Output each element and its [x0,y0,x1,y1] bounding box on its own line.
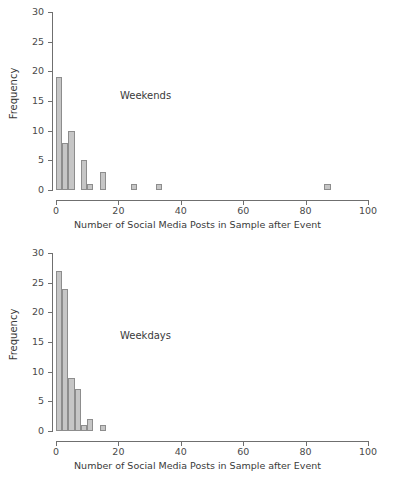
y-axis-tick [48,372,53,373]
chart-panel-weekdays: 051015202530020406080100 Frequency Numbe… [0,241,395,482]
y-axis-tick-label: 30 [0,7,44,17]
y-axis-tick [48,101,53,102]
x-axis-tick-label: 0 [36,446,76,457]
histogram-bar [87,184,93,190]
y-axis-tick [48,431,53,432]
x-axis-tick-label: 80 [286,446,326,457]
y-axis-title-weekends: Frequency [8,29,19,159]
y-axis-tick [48,283,53,284]
y-axis-tick [48,253,53,254]
y-axis-tick [48,131,53,132]
y-axis-tick-label: 0 [0,185,44,195]
x-axis-title-weekdays: Number of Social Media Posts in Sample a… [0,460,395,471]
x-axis-tick-label: 100 [348,205,388,216]
series-label-weekdays: Weekdays [120,330,171,341]
y-axis-tick [48,190,53,191]
y-axis-tick [48,42,53,43]
x-axis-line-weekdays [56,441,368,442]
series-label-weekends: Weekends [120,90,171,101]
histogram-bar [324,184,330,190]
plot-area-weekdays [56,253,368,431]
plot-area-weekends [56,12,368,190]
x-axis-tick-label: 40 [161,205,201,216]
histogram-bar [131,184,137,190]
y-axis-tick [48,342,53,343]
histogram-bar [100,425,106,431]
y-axis-tick [48,160,53,161]
x-axis-tick-label: 100 [348,446,388,457]
bars-weekdays [56,253,368,431]
x-axis-tick-label: 80 [286,205,326,216]
x-axis-tick-label: 0 [36,205,76,216]
y-axis-tick [48,71,53,72]
y-axis-tick-label: 0 [0,426,44,436]
x-axis-line-weekends [56,200,368,201]
y-axis-tick-label: 30 [0,248,44,258]
chart-panel-weekends: 051015202530020406080100 Frequency Numbe… [0,0,395,241]
x-axis-tick-label: 20 [98,446,138,457]
x-axis-tick-label: 60 [223,446,263,457]
x-axis-title-weekends: Number of Social Media Posts in Sample a… [0,219,395,230]
y-axis-title-weekdays: Frequency [8,270,19,400]
histogram-bar [87,419,93,431]
y-axis-tick [48,312,53,313]
x-axis-tick-label: 40 [161,446,201,457]
histogram-bar [68,131,74,190]
histogram-bar [156,184,162,190]
x-axis-tick-label: 60 [223,205,263,216]
bars-weekends [56,12,368,190]
histogram-bar [100,172,106,190]
y-axis-tick [48,12,53,13]
x-axis-tick-label: 20 [98,205,138,216]
y-axis-tick [48,401,53,402]
